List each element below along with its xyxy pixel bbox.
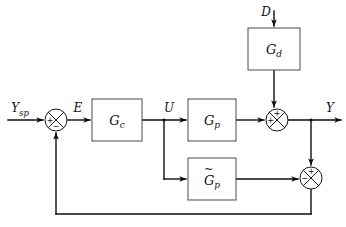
summing-junction-output[interactable]: + + <box>266 109 288 131</box>
signal-label-u: U <box>164 101 175 115</box>
signal-label-y: Y <box>326 101 335 115</box>
junction-layer: + − + + + − <box>45 109 322 189</box>
summing-junction-model-error[interactable]: + − <box>300 167 322 189</box>
sign-output-top: + <box>274 109 281 118</box>
summing-junction-error[interactable]: + − <box>45 109 67 131</box>
diagram-canvas: Gd Gc Gp ~ Gp <box>0 0 346 227</box>
sign-model-left: − <box>301 174 308 183</box>
signal-label-ysp: Ysp <box>11 101 29 118</box>
sign-error-bottom: − <box>53 122 60 131</box>
signal-label-e: E <box>73 101 83 115</box>
imc-block-diagram: Gd Gc Gp ~ Gp <box>0 0 346 227</box>
sign-output-left: + <box>267 116 274 125</box>
u-branch-node <box>162 118 165 121</box>
signal-label-d: D <box>260 5 271 19</box>
sign-model-top: + <box>308 167 315 176</box>
y-branch-node <box>309 118 312 121</box>
